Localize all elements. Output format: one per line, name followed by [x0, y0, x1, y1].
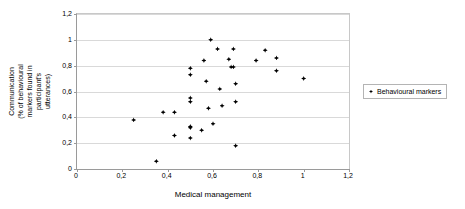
- y-axis-tick-label: 0,8: [54, 61, 75, 68]
- x-axis-tick-labels: 00,20,40,60,811,2: [76, 172, 350, 184]
- data-point: [220, 103, 225, 108]
- data-point: [188, 136, 193, 141]
- grid-line: [77, 14, 349, 15]
- y-axis-title-container: Communication (% of behavioural markers …: [0, 0, 58, 182]
- y-axis-tick-mark: [74, 40, 77, 41]
- y-axis-tick-label: 0,6: [54, 87, 75, 94]
- x-axis-tick-label: 0: [74, 172, 78, 179]
- data-point: [206, 106, 211, 111]
- data-point: [172, 133, 177, 138]
- data-point: [172, 110, 177, 115]
- grid-line: [77, 40, 349, 41]
- legend-entry-label: Behavioural markers: [377, 88, 441, 95]
- data-point: [188, 99, 193, 104]
- x-axis-tick-label: 1,2: [343, 172, 353, 179]
- y-axis-tick-label: 0,2: [54, 139, 75, 146]
- grid-line: [77, 92, 349, 93]
- x-axis-tick-label: 0,2: [116, 172, 126, 179]
- data-point: [199, 128, 204, 133]
- y-axis-tick-label: 0: [54, 165, 75, 172]
- data-point: [254, 58, 259, 63]
- diamond-marker-icon: [369, 90, 373, 94]
- x-axis-tick-label: 1: [301, 172, 305, 179]
- x-axis-tick-label: 0,8: [252, 172, 262, 179]
- data-point: [161, 110, 166, 115]
- y-axis-tick-mark: [74, 117, 77, 118]
- y-axis-tick-mark: [74, 66, 77, 67]
- data-point: [208, 37, 213, 42]
- y-axis-tick-mark: [74, 92, 77, 93]
- y-axis-tick-label: 1: [54, 35, 75, 42]
- data-point: [188, 72, 193, 77]
- grid-line: [77, 143, 349, 144]
- data-point: [211, 121, 216, 126]
- y-axis-tick-label: 1,2: [54, 10, 75, 17]
- data-point: [231, 46, 236, 51]
- data-point: [233, 81, 238, 86]
- grid-line: [77, 66, 349, 67]
- data-point: [263, 48, 268, 53]
- x-axis-title: Medical management: [76, 190, 350, 199]
- y-axis-tick-labels: 00,20,40,60,811,2: [54, 0, 75, 209]
- y-axis-tick-mark: [74, 143, 77, 144]
- x-axis-tick-label: 0,4: [162, 172, 172, 179]
- grid-line: [77, 117, 349, 118]
- data-point: [274, 55, 279, 60]
- data-point: [226, 57, 231, 62]
- plot-area: [76, 13, 350, 170]
- x-axis-tick-label: 0,6: [207, 172, 217, 179]
- chart-legend: Behavioural markers: [363, 84, 447, 99]
- data-point: [154, 159, 159, 164]
- data-point: [274, 68, 279, 73]
- data-point: [215, 46, 220, 51]
- y-axis-tick-mark: [74, 14, 77, 15]
- data-point: [301, 76, 306, 81]
- y-axis-tick-label: 0,4: [54, 113, 75, 120]
- data-point: [201, 58, 206, 63]
- data-point: [188, 124, 193, 129]
- data-point: [233, 99, 238, 104]
- scatter-chart-figure: Communication (% of behavioural markers …: [0, 0, 465, 209]
- y-axis-title: Communication (% of behavioural markers …: [7, 62, 52, 120]
- data-point: [204, 79, 209, 84]
